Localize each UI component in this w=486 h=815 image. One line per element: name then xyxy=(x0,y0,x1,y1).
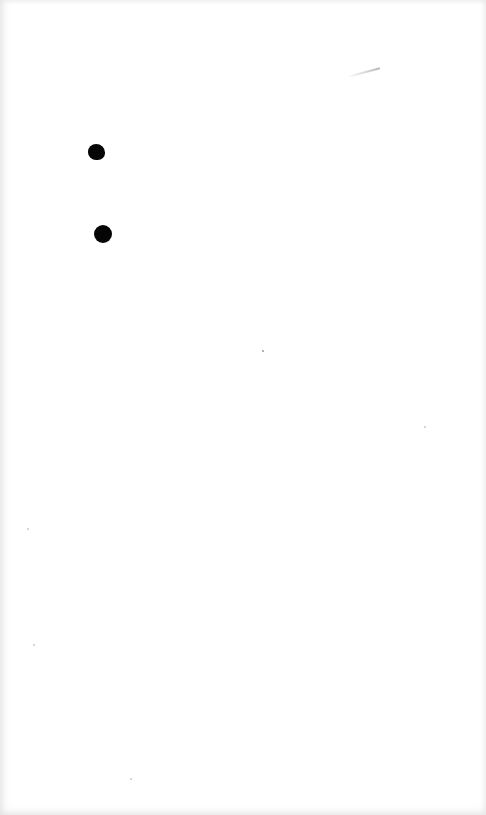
speck xyxy=(27,528,29,530)
faint-pencil-stroke xyxy=(347,67,380,78)
speck xyxy=(130,778,132,780)
speck xyxy=(424,426,426,428)
ink-dot-top xyxy=(88,144,105,160)
ink-dot-bottom xyxy=(94,225,112,243)
speck xyxy=(262,350,264,352)
speck xyxy=(33,644,35,646)
blank-paper-sheet xyxy=(0,0,486,815)
